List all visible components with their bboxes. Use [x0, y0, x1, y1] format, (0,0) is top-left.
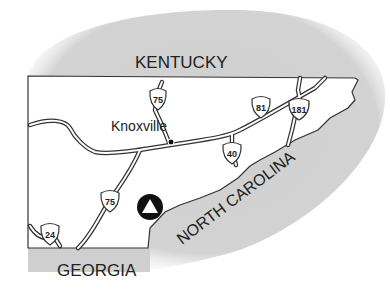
park-marker-icon	[137, 194, 163, 220]
svg-text:181: 181	[291, 105, 306, 115]
tennessee-map: 75 81 181 40 75 24 KENTUCKY Knoxville GE…	[0, 0, 390, 297]
label-knoxville: Knoxville	[111, 118, 167, 134]
label-georgia: GEORGIA	[57, 261, 137, 280]
svg-text:24: 24	[45, 230, 55, 240]
label-kentucky: KENTUCKY	[135, 53, 228, 72]
svg-text:75: 75	[105, 197, 115, 207]
svg-text:40: 40	[227, 149, 237, 159]
svg-text:81: 81	[256, 103, 266, 113]
knoxville-dot-icon	[168, 139, 174, 145]
svg-text:75: 75	[153, 95, 163, 105]
